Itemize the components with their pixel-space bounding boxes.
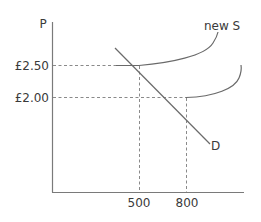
qty-low-label: 500 — [128, 196, 151, 210]
supply-demand-chart: P £2.50 £2.00 500 800 D new S — [0, 0, 261, 222]
price-high-label: £2.50 — [15, 59, 49, 73]
dashed-guides — [53, 66, 187, 193]
axes — [52, 22, 244, 193]
qty-high-label: 800 — [176, 196, 199, 210]
y-axis-label: P — [39, 17, 46, 31]
demand-label: D — [211, 139, 220, 153]
new-supply-label: new S — [204, 19, 240, 33]
new-supply-curve — [116, 32, 218, 66]
original-supply-curve — [186, 65, 241, 98]
price-low-label: £2.00 — [15, 91, 49, 105]
curves — [115, 32, 241, 144]
